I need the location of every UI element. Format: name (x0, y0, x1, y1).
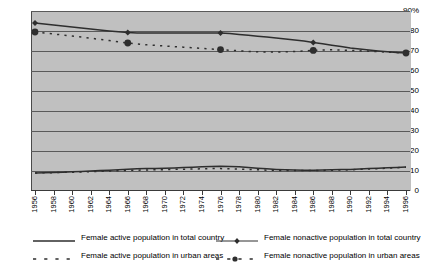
series-marker (218, 30, 224, 36)
x-axis-tick-label: 1960 (68, 196, 76, 213)
legend-swatch-solid-diamond (215, 232, 259, 242)
series-marker (124, 40, 131, 47)
legend-label: Female nonactive population in urban are… (264, 251, 420, 260)
legend-item-nonactive-total[interactable]: Female nonactive population in total cou… (215, 230, 421, 244)
series-marker (32, 20, 38, 26)
x-axis-tick-label: 1994 (383, 196, 391, 213)
legend-swatch-dashed-circle (215, 250, 259, 260)
legend-label: Female active population in total countr… (81, 233, 224, 242)
x-axis-tick (35, 191, 36, 195)
chart-legend: Female active population in total countr… (0, 230, 419, 267)
x-axis-tick (369, 191, 370, 195)
x-axis-tick-label: 1968 (142, 196, 150, 213)
series-lines (31, 11, 410, 191)
x-axis-tick (72, 191, 73, 195)
x-axis-tick-label: 1988 (328, 196, 336, 213)
series-marker (310, 47, 317, 54)
x-axis-tick-label: 1970 (161, 196, 169, 213)
x-axis-tick (109, 191, 110, 195)
x-axis-tick (91, 191, 92, 195)
x-axis-tick-label: 1996 (402, 196, 410, 213)
x-axis-tick-label: 1978 (235, 196, 243, 213)
x-axis-tick (332, 191, 333, 195)
legend-item-active-total[interactable]: Female active population in total countr… (32, 230, 224, 244)
x-axis-tick (128, 191, 129, 195)
legend-swatch-dashed-plain (32, 250, 76, 260)
series-marker (32, 29, 39, 36)
x-axis-tick (350, 191, 351, 195)
x-axis-tick (183, 191, 184, 195)
x-axis-tick-label: 1972 (179, 196, 187, 213)
x-axis-tick-label: 1956 (31, 196, 39, 213)
x-axis-tick-label: 1982 (272, 196, 280, 213)
x-axis-tick-label: 1976 (217, 196, 225, 213)
series-marker (125, 30, 131, 36)
x-axis-tick (239, 191, 240, 195)
x-axis-tick (165, 191, 166, 195)
x-axis-tick (146, 191, 147, 195)
x-axis-tick-label: 1966 (124, 196, 132, 213)
x-axis-tick (202, 191, 203, 195)
x-axis-tick (313, 191, 314, 195)
legend-item-nonactive-urban[interactable]: Female nonactive population in urban are… (215, 248, 420, 262)
x-axis-tick (276, 191, 277, 195)
legend-item-active-urban[interactable]: Female active population in urban areas (32, 248, 223, 262)
x-axis-tick-label: 1986 (309, 196, 317, 213)
x-axis-tick-label: 1964 (105, 196, 113, 213)
plot-area (31, 11, 410, 191)
legend-label: Female nonactive population in total cou… (264, 233, 421, 242)
series-line (35, 166, 406, 173)
x-axis-tick-label: 1990 (346, 196, 354, 213)
x-axis-tick-label: 1984 (291, 196, 299, 213)
x-axis-tick-label: 1962 (87, 196, 95, 213)
legend-label: Female active population in urban areas (81, 251, 223, 260)
series-marker (310, 39, 316, 45)
x-axis-tick-label: 1980 (254, 196, 262, 213)
x-axis-tick (295, 191, 296, 195)
legend-swatch-solid-plain (32, 232, 76, 242)
x-axis-tick (406, 191, 407, 195)
x-axis-tick-label: 1958 (50, 196, 58, 213)
x-axis-tick-label: 1974 (198, 196, 206, 213)
x-axis-tick-label: 1992 (365, 196, 373, 213)
series-marker (217, 46, 224, 53)
x-axis-tick (387, 191, 388, 195)
x-axis-tick (54, 191, 55, 195)
x-axis-tick (258, 191, 259, 195)
series-marker (403, 50, 410, 57)
x-axis-tick (221, 191, 222, 195)
